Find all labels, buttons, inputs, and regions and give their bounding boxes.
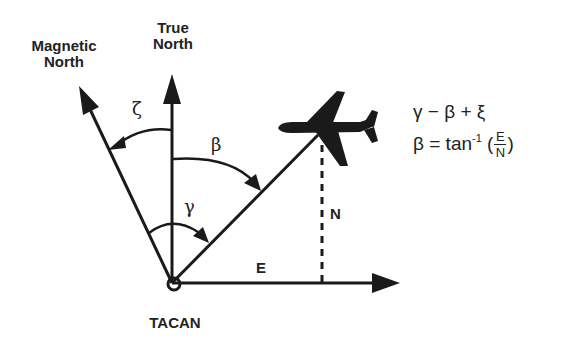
east-component-label: E xyxy=(256,260,266,276)
magnetic-north-label-line2: North xyxy=(24,54,104,70)
true-north-label: True North xyxy=(138,20,208,52)
equation-1: γ − β + ξ xyxy=(413,101,485,123)
aircraft-icon xyxy=(278,91,378,166)
gamma-angle-label: γ xyxy=(184,196,195,217)
eq2-numerator: E xyxy=(496,130,505,143)
zeta-arc-arrow xyxy=(108,129,171,150)
gamma-arc-arrow xyxy=(149,224,209,243)
magnetic-north-label: Magnetic North xyxy=(24,38,104,70)
eq1-term3: ξ xyxy=(477,101,486,122)
zeta-angle-label: ζ xyxy=(132,98,142,119)
eq2-denominator: N xyxy=(496,146,505,159)
true-north-arrow xyxy=(163,74,181,283)
eq2-open-paren: ( xyxy=(487,133,493,154)
eq2-op: = xyxy=(429,133,440,154)
eq1-term2: β xyxy=(444,101,455,122)
true-north-label-line1: True xyxy=(138,20,208,36)
true-north-label-line2: North xyxy=(138,36,208,52)
eq1-op2: + xyxy=(460,101,471,122)
eq2-close-paren: ) xyxy=(507,133,513,154)
eq1-lhs: γ xyxy=(413,101,423,122)
beta-arc-arrow xyxy=(173,159,261,192)
eq2-exponent: -1 xyxy=(472,132,482,144)
eq2-fraction: EN xyxy=(494,130,506,159)
tacan-label: TACAN xyxy=(130,315,220,331)
equation-2: β = tan-1 (EN) xyxy=(413,130,514,159)
north-component-label: N xyxy=(330,206,341,222)
beta-angle-label: β xyxy=(211,134,221,155)
magnetic-north-label-line1: Magnetic xyxy=(24,38,104,54)
eq2-lhs: β xyxy=(413,133,424,154)
east-axis-arrow xyxy=(172,273,400,293)
eq2-func: tan xyxy=(446,133,472,154)
magnetic-north-arrow xyxy=(79,86,172,283)
eq1-op1: − xyxy=(428,101,439,122)
